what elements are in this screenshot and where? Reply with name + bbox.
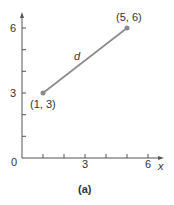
point-start-label: (1, 3) (30, 98, 56, 110)
distance-segment (43, 28, 127, 93)
figure-caption: (a) (78, 183, 92, 195)
coordinate-plane: 6 3 0 3 6 x d (1, 3) (5, 6) (a) (0, 0, 174, 205)
point-end (125, 26, 130, 31)
x-tick-label-6: 6 (145, 158, 151, 170)
y-tick-label-3: 3 (10, 87, 16, 99)
x-tick-label-3: 3 (82, 158, 88, 170)
x-axis-label: x (157, 160, 164, 172)
y-ticks (22, 28, 26, 136)
point-start (41, 91, 46, 96)
point-end-label: (5, 6) (116, 11, 142, 23)
x-ticks (43, 154, 148, 158)
segment-label: d (74, 50, 81, 62)
y-axis-arrow-icon (20, 12, 24, 18)
origin-label: 0 (11, 156, 17, 168)
y-tick-label-6: 6 (10, 22, 16, 34)
